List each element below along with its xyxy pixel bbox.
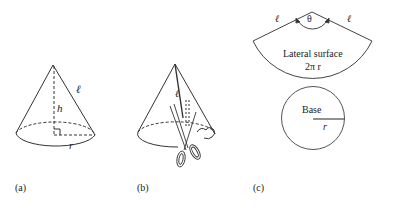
caption-b: (b)	[137, 182, 149, 194]
cone-b-left-edge	[138, 64, 175, 132]
cone-surface-area-figure: ℓ h r (a) ℓ (b) θ ℓ ℓ Lateral surface 2π…	[0, 0, 393, 206]
sector-arc-length: 2π r	[305, 61, 322, 72]
base-title: Base	[302, 104, 322, 115]
panel-b-cone	[138, 64, 215, 147]
caption-c: (c)	[253, 182, 264, 194]
cone-a-radius-label: r	[69, 139, 74, 151]
base-circle	[282, 87, 346, 150]
cone-b-base-front	[138, 132, 178, 147]
cone-a-base-back	[16, 122, 95, 135]
sector-title: Lateral surface	[283, 48, 343, 59]
sector-arc	[253, 41, 372, 78]
caption-a: (a)	[15, 182, 26, 194]
panel-a-cone	[16, 65, 95, 146]
base-radius-label: r	[323, 121, 327, 132]
base-circle-outline	[282, 87, 345, 150]
theta-label: θ	[307, 13, 312, 24]
cone-a-left-edge	[16, 65, 53, 133]
cone-b-right-edge	[175, 64, 215, 134]
angle-arc	[297, 19, 328, 29]
cone-b-slant-label: ℓ	[175, 88, 179, 99]
cone-a-height-label: h	[57, 102, 63, 114]
cone-a-right-edge	[53, 65, 95, 135]
sector-left-label: ℓ	[275, 13, 279, 24]
sector-right-label: ℓ	[347, 13, 351, 24]
right-angle-marker	[54, 129, 60, 135]
cone-a-slant-label: ℓ	[76, 83, 81, 95]
